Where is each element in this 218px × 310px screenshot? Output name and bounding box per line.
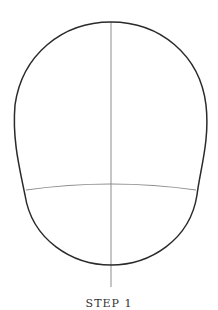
step-caption: STEP 1	[0, 297, 218, 310]
